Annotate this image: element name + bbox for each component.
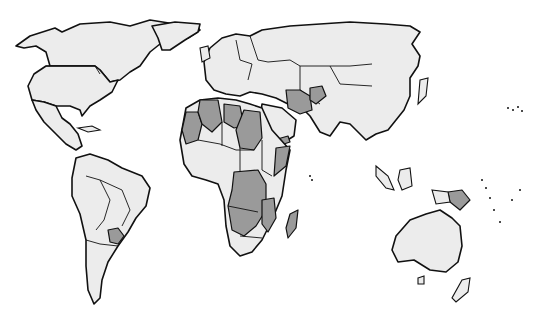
tasmania (418, 276, 424, 284)
island-dot (507, 107, 509, 109)
pacific-islands (309, 106, 523, 223)
island-dot (517, 106, 519, 108)
papua-new-guinea (448, 190, 470, 210)
cuba (78, 126, 100, 132)
sumatra (376, 166, 394, 190)
island-dot (511, 199, 513, 201)
north-america (16, 20, 200, 150)
island-dot (485, 187, 487, 189)
south-america (72, 154, 150, 304)
new-zealand (452, 278, 470, 302)
madagascar (286, 210, 298, 238)
mozambique-coast (262, 198, 276, 232)
island-dot (489, 197, 491, 199)
australia (392, 210, 462, 272)
greenland (152, 22, 200, 50)
borneo (398, 168, 412, 190)
world-map (0, 0, 538, 323)
island-dot (521, 110, 523, 112)
island-dot (493, 209, 495, 211)
island-dot (311, 179, 313, 181)
japan (418, 78, 428, 104)
island-dot (512, 109, 514, 111)
new-guinea-west (432, 190, 450, 204)
island-dot (481, 179, 483, 181)
island-dot (309, 175, 311, 177)
oceania (376, 166, 470, 302)
island-dot (519, 189, 521, 191)
island-dot (499, 221, 501, 223)
